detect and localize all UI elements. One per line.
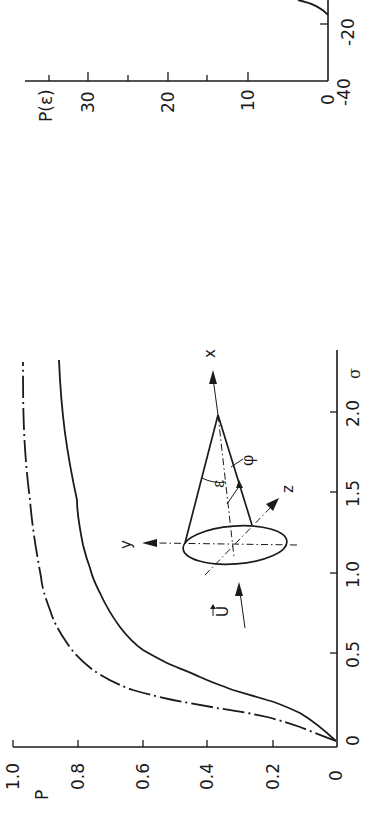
u-vector-line <box>240 592 245 628</box>
epsilon-tick-label-minus40: -40 <box>334 78 354 106</box>
p-axis-ticks <box>13 740 273 747</box>
p-epsilon-tick-label-30: 30 <box>78 91 98 113</box>
sigma-tick-label-0: 0 <box>343 735 363 746</box>
p-epsilon-ticks <box>49 72 248 81</box>
y-axis-line <box>157 543 297 545</box>
epsilon-tick-label-minus20: -20 <box>338 18 358 46</box>
chart-p-sigma: 1.0 0.8 0.6 0.4 0.2 0 P 0 0.5 1.0 1.5 2.… <box>3 350 364 800</box>
p-tick-label-0.8: 0.8 <box>68 763 88 790</box>
phi-label: φ <box>238 455 257 466</box>
p-tick-label-0: 0 <box>326 770 346 781</box>
sigma-axis-ticks <box>330 412 337 653</box>
z-axis-arrowhead <box>266 498 279 511</box>
cone-diagram: x y z ε φ U <box>117 349 297 628</box>
svg-text:U: U <box>214 606 232 617</box>
x-axis-arrowhead <box>209 370 217 384</box>
p-epsilon-curve <box>298 0 328 15</box>
y-axis-label: y <box>117 540 135 549</box>
sigma-tick-label-1.0: 1.0 <box>343 561 363 588</box>
p-epsilon-axis-label: P(ε) <box>36 89 56 122</box>
p-epsilon-tick-label-10: 10 <box>238 89 258 111</box>
z-axis-label: z <box>279 485 297 493</box>
epsilon-label: ε <box>209 480 228 488</box>
sigma-axis-label: σ <box>345 368 364 379</box>
sigma-tick-label-2.0: 2.0 <box>343 400 363 427</box>
u-vector-label: U <box>210 604 232 617</box>
x-axis-label: x <box>201 349 219 358</box>
chart-p-epsilon: P(ε) 30 20 10 0 -40 -20 <box>25 0 358 122</box>
p-tick-label-0.4: 0.4 <box>197 763 217 790</box>
phi-arrowhead <box>236 480 243 488</box>
dashdot-curve <box>23 362 336 741</box>
sigma-tick-label-0.5: 0.5 <box>343 641 363 668</box>
y-axis-arrowhead <box>142 539 157 547</box>
p-axis-label: P <box>32 790 52 800</box>
u-vector-arrowhead <box>235 582 243 596</box>
p-epsilon-tick-label-20: 20 <box>158 91 178 113</box>
figure-canvas: P(ε) 30 20 10 0 -40 -20 1.0 <box>0 0 374 837</box>
solid-curve <box>59 360 336 741</box>
p-tick-label-1.0: 1.0 <box>3 763 23 790</box>
p-tick-label-0.6: 0.6 <box>133 763 153 790</box>
cone-left-edge <box>185 415 218 543</box>
p-tick-label-0.2: 0.2 <box>263 763 283 790</box>
sigma-tick-label-1.5: 1.5 <box>343 480 363 507</box>
cone-right-edge <box>218 415 252 525</box>
